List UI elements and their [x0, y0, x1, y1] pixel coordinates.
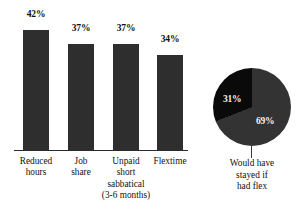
bar-column-reduced-hours: 42% Reduced hours: [14, 0, 58, 223]
bar-value-label: 37%: [59, 23, 103, 34]
bar-category-label-line3: sabbatical: [98, 179, 154, 190]
bar-value-label: 34%: [148, 34, 192, 45]
bar-category-label-line1: Flextime: [142, 156, 198, 167]
pie-chart: 31% 69% Would have stayed if had flex: [196, 0, 307, 223]
bar-category-label-line4: (3-6 months): [98, 190, 154, 201]
bar-category-label: Flextime: [142, 156, 198, 167]
bar-rect: [113, 44, 139, 151]
bar-category-label-line2: short: [98, 167, 154, 178]
pie-slice-label-major: 69%: [256, 116, 274, 126]
pie-caption-line1: Would have: [202, 158, 302, 170]
pie-caption-leader-line: [251, 144, 252, 158]
bar-column-unpaid-sabbatical: 37% Unpaid short sabbatical (3-6 months): [104, 0, 148, 223]
bar-column-job-share: 37% Job share: [59, 0, 103, 223]
pie-caption-line3: had flex: [202, 181, 302, 193]
pie-caption: Would have stayed if had flex: [202, 158, 302, 193]
bar-chart: 42% Reduced hours 37% Job share 37% Unpa…: [0, 0, 196, 223]
pie-disc: [213, 68, 291, 146]
pie-slice-label-minor: 31%: [223, 94, 241, 104]
pie-caption-line2: stayed if: [202, 170, 302, 182]
bar-chart-baseline-axis: [14, 150, 188, 151]
bar-value-label: 42%: [14, 9, 58, 20]
figure-panel: 42% Reduced hours 37% Job share 37% Unpa…: [0, 0, 307, 223]
bar-column-flextime: 34% Flextime: [148, 0, 192, 223]
bar-rect: [68, 44, 94, 151]
bar-rect: [157, 55, 183, 151]
bar-rect: [23, 30, 49, 151]
bar-value-label: 37%: [104, 23, 148, 34]
